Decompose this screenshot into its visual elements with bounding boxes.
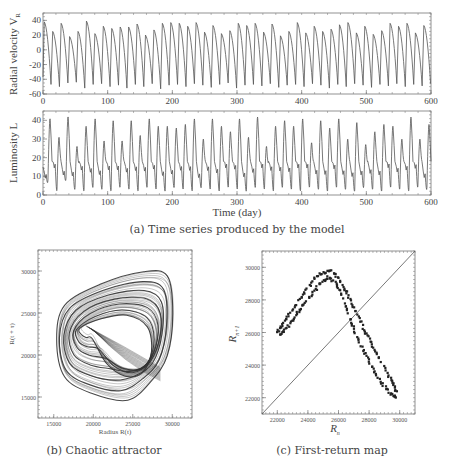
return-map-point bbox=[379, 378, 381, 380]
x-tick-label: 500 bbox=[360, 197, 374, 207]
return-map-point bbox=[362, 324, 364, 326]
return-map-point bbox=[347, 312, 349, 314]
return-map-point bbox=[289, 312, 291, 314]
return-map-point bbox=[372, 347, 374, 349]
return-map-point bbox=[287, 315, 289, 317]
return-map-point bbox=[361, 346, 363, 348]
chaotic-attractor-plot: 1500020000250003000015000200002500030000 bbox=[21, 250, 192, 427]
return-map-point bbox=[335, 273, 337, 275]
return-map-point bbox=[316, 289, 318, 291]
return-map-point bbox=[353, 325, 355, 327]
return-map-point bbox=[357, 339, 359, 341]
return-map-point bbox=[376, 377, 378, 379]
radial-velocity-line bbox=[43, 21, 431, 89]
y-tick-label: 30000 bbox=[245, 265, 260, 271]
return-map-point bbox=[390, 377, 392, 379]
radial-velocity-ylabel: Radial velocity VR bbox=[7, 13, 22, 95]
return-map-point bbox=[350, 299, 352, 301]
y-tick-label: 20 bbox=[32, 153, 42, 163]
caption-b: (b) Chaotic attractor bbox=[46, 444, 162, 457]
return-map-point bbox=[347, 294, 349, 296]
return-map-point bbox=[300, 308, 302, 310]
return-map-point bbox=[295, 304, 297, 306]
return-map-point bbox=[385, 385, 387, 387]
return-map-point bbox=[341, 284, 343, 286]
identity-diagonal bbox=[262, 251, 415, 414]
return-map-point bbox=[288, 326, 290, 328]
return-map-point bbox=[368, 363, 370, 365]
caption-a: (a) Time series produced by the model bbox=[129, 223, 345, 236]
return-map-xlabel: Rn bbox=[329, 422, 340, 436]
return-map-point bbox=[311, 280, 313, 282]
x-tick-label: 0 bbox=[41, 197, 46, 207]
return-map-point bbox=[292, 308, 294, 310]
x-tick-label: 400 bbox=[295, 197, 309, 207]
y-tick-label: 15000 bbox=[21, 395, 36, 401]
return-map-point bbox=[342, 297, 344, 299]
x-tick-label: 24000 bbox=[300, 417, 315, 423]
return-map-point bbox=[293, 316, 295, 318]
return-map-point bbox=[351, 325, 353, 327]
return-map-point bbox=[378, 357, 380, 359]
y-tick-label: -60 bbox=[29, 89, 41, 99]
return-map-point bbox=[347, 297, 349, 299]
return-map-point bbox=[339, 289, 341, 291]
return-map-point bbox=[380, 361, 382, 363]
return-map-point bbox=[387, 392, 389, 394]
return-map-point bbox=[285, 318, 287, 320]
return-map-point bbox=[285, 327, 287, 329]
return-map-point bbox=[278, 330, 280, 332]
y-tick-label: 0 bbox=[37, 45, 42, 55]
return-map-point bbox=[301, 296, 303, 298]
return-map-point bbox=[339, 281, 341, 283]
return-map-point bbox=[287, 313, 289, 315]
x-tick-label: 500 bbox=[360, 96, 374, 106]
return-map-point bbox=[311, 293, 313, 295]
return-map-point bbox=[383, 365, 385, 367]
return-map-point bbox=[330, 277, 332, 279]
return-map-point bbox=[353, 332, 355, 334]
return-map-point bbox=[358, 341, 360, 343]
return-map-point bbox=[369, 337, 371, 339]
return-map-point bbox=[384, 367, 386, 369]
return-map-point bbox=[344, 302, 346, 304]
return-map-point bbox=[305, 300, 307, 302]
x-tick-label: 30000 bbox=[165, 421, 180, 427]
return-map-point bbox=[334, 276, 336, 278]
return-map-point bbox=[382, 382, 384, 384]
attractor-ylabel: R(t + τ) bbox=[8, 323, 16, 345]
return-map-point bbox=[360, 345, 362, 347]
return-map-point bbox=[368, 361, 370, 363]
return-map-point bbox=[387, 376, 389, 378]
luminosity-ylabel: Luminosity L bbox=[7, 123, 19, 183]
return-map-point bbox=[345, 292, 347, 294]
return-map-point bbox=[326, 278, 328, 280]
return-map-point bbox=[365, 352, 367, 354]
x-tick-label: 22000 bbox=[270, 417, 285, 423]
return-map-point bbox=[368, 358, 370, 360]
x-tick-label: 25000 bbox=[125, 421, 140, 427]
y-tick-label: 30 bbox=[32, 134, 42, 144]
y-tick-label: 20 bbox=[32, 30, 42, 40]
plot-frame bbox=[38, 250, 192, 418]
x-tick-label: 0 bbox=[41, 96, 46, 106]
luminosity-plot: 0100200300400500600010203040 bbox=[32, 111, 438, 207]
y-tick-label: 30000 bbox=[21, 269, 36, 275]
return-map-point bbox=[303, 291, 305, 293]
return-map-point bbox=[375, 374, 377, 376]
return-map-point bbox=[373, 368, 375, 370]
return-map-point bbox=[310, 285, 312, 287]
return-map-point bbox=[371, 343, 373, 345]
x-tick-label: 30000 bbox=[392, 417, 407, 423]
x-tick-label: 300 bbox=[230, 96, 244, 106]
return-map-point bbox=[321, 273, 323, 275]
caption-c: (c) First-return map bbox=[276, 444, 388, 457]
return-map-point bbox=[317, 275, 319, 277]
return-map-point bbox=[337, 277, 339, 279]
y-tick-label: 10 bbox=[32, 171, 42, 181]
y-tick-label: 22000 bbox=[245, 396, 260, 402]
return-map-point bbox=[353, 328, 355, 330]
return-map-point bbox=[365, 332, 367, 334]
return-map-point bbox=[286, 316, 288, 318]
return-map-point bbox=[394, 387, 396, 389]
